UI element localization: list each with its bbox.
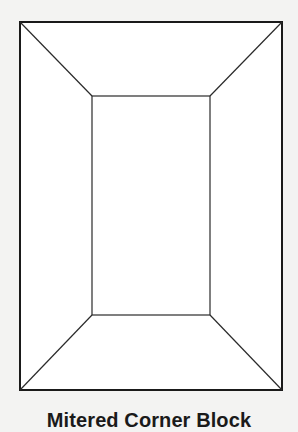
outer-frame — [20, 22, 282, 390]
diagram-caption: Mitered Corner Block — [0, 409, 298, 431]
mitered-corner-block-diagram — [0, 0, 298, 432]
